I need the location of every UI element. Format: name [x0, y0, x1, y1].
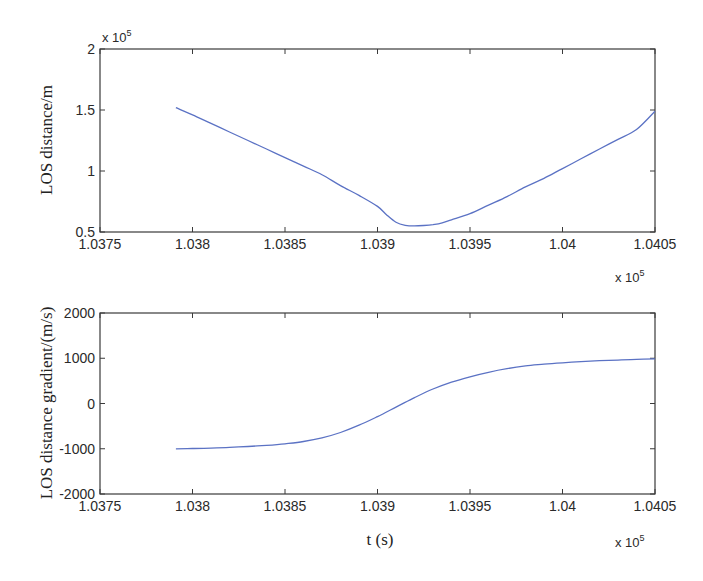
y-tick-label: -2000	[59, 486, 95, 502]
x-tick-label: 1.038	[175, 236, 210, 252]
x-tick-label: 1.04	[549, 498, 576, 514]
x-tick-label: 1.0385	[264, 236, 307, 252]
bottom-x-multiplier: x 105	[615, 533, 645, 550]
y-tick-label: 0	[87, 396, 95, 412]
x-tick-label: 1.039	[360, 236, 395, 252]
y-tick-label: 1.5	[76, 102, 96, 118]
x-tick-label: 1.0385	[264, 498, 307, 514]
x-tick-label: 1.0395	[449, 498, 492, 514]
bottom-subplot: 1.03751.0381.03851.0391.03951.041.0405 -…	[37, 305, 677, 550]
bottom-x-axis-title: t (s)	[367, 530, 394, 549]
top-x-multiplier: x 105	[615, 268, 645, 285]
y-tick-label: 1000	[64, 350, 95, 366]
y-tick-label: -1000	[59, 441, 95, 457]
x-tick-label: 1.0395	[449, 236, 492, 252]
x-tick-label: 1.0405	[634, 498, 677, 514]
x-tick-label: 1.039	[360, 498, 395, 514]
bottom-y-axis-title: LOS distance gradient/(m/s)	[37, 307, 56, 500]
top-plot-frame	[100, 49, 655, 232]
top-y-multiplier: x 105	[102, 28, 132, 45]
bottom-plot-frame	[100, 313, 655, 494]
figure: 1.03751.0381.03851.0391.03951.041.0405 0…	[0, 0, 703, 581]
y-tick-label: 1	[87, 163, 95, 179]
top-subplot: 1.03751.0381.03851.0391.03951.041.0405 0…	[37, 28, 677, 285]
y-tick-label: 2	[87, 41, 95, 57]
x-tick-label: 1.038	[175, 498, 210, 514]
y-tick-label: 2000	[64, 305, 95, 321]
x-tick-label: 1.04	[549, 236, 576, 252]
top-y-axis-title: LOS distance/m	[37, 85, 56, 195]
x-tick-label: 1.0405	[634, 236, 677, 252]
y-tick-label: 0.5	[76, 224, 96, 240]
